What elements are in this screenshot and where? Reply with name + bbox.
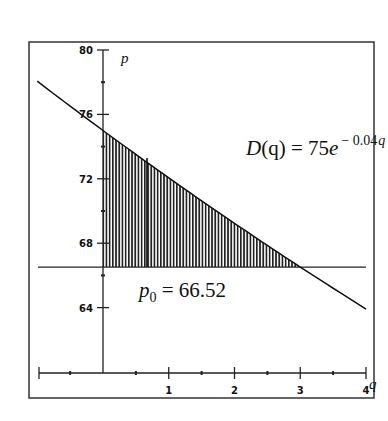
x-axis: 1234 — [39, 367, 370, 396]
y-tick-label: 64 — [79, 303, 93, 314]
x-tick-label: 2 — [231, 385, 238, 396]
y-tick-label: 72 — [79, 174, 93, 185]
x-axis-label: q — [369, 376, 377, 392]
chart-svg: 8076726864 1234 p q D(q) = 75e− 0.04q p0… — [0, 0, 388, 421]
y-tick-label: 80 — [79, 45, 93, 56]
demand-equation-label: D(q) = 75e− 0.04q — [245, 133, 385, 160]
p0-label: p0 = 66.52 — [137, 278, 226, 305]
x-tick-label: 3 — [297, 385, 304, 396]
x-tick-label: 1 — [165, 385, 172, 396]
y-tick-label: 68 — [79, 238, 93, 249]
y-axis-label: p — [120, 50, 129, 66]
